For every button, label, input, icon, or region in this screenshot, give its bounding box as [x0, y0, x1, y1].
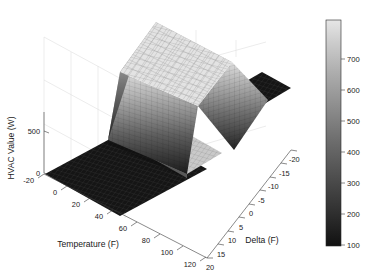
y-tick-label: 20 [206, 263, 214, 272]
x-tick-label: 120 [184, 260, 196, 269]
x-tick-label: 40 [95, 212, 103, 221]
colorbar: 100 200 300 400 500 600 700 [310, 0, 376, 277]
colorbar-tick-label: 700 [347, 55, 360, 64]
x-tick-label: 60 [119, 224, 127, 233]
x-tick-label: 20 [72, 200, 80, 209]
x-tick-label: -20 [23, 176, 34, 185]
colorbar-gradient [326, 20, 341, 246]
colorbar-svg: 100 200 300 400 500 600 700 [310, 0, 376, 277]
y-tick-label: 10 [228, 236, 236, 245]
colorbar-tick-label: 400 [347, 148, 360, 157]
z-tick-label: 500 [28, 127, 40, 136]
y-tick-label: 0 [249, 209, 253, 218]
z-tick-label: 0 [36, 169, 40, 178]
y-tick-label: 15 [217, 250, 225, 259]
figure-root: 0 500 -20 0 20 40 60 80 100 120 [0, 0, 376, 277]
colorbar-tick-label: 600 [347, 86, 360, 95]
y-tick-label: 5 [239, 223, 243, 232]
colorbar-tick-label: 200 [347, 210, 360, 219]
x-tick-label: 80 [142, 236, 150, 245]
z-axis-title: HVAC Value (W) [6, 116, 16, 179]
colorbar-tick-label: 100 [347, 241, 360, 250]
y-tick-label: -5 [258, 196, 265, 205]
z-axis-ticks: 0 500 [28, 127, 49, 178]
y-tick-label: -15 [279, 169, 290, 178]
y-axis-title: Delta (F) [245, 235, 279, 245]
y-tick-label: -10 [268, 182, 279, 191]
colorbar-tick-label: 500 [347, 117, 360, 126]
y-tick-label: -20 [289, 155, 300, 164]
y-axis-ticks: 20 15 10 5 0 -5 -10 -15 -20 [206, 150, 300, 272]
colorbar-ticks [341, 59, 345, 245]
surface-plot-axes: 0 500 -20 0 20 40 60 80 100 120 [0, 0, 310, 277]
x-tick-label: 100 [161, 248, 173, 257]
colorbar-tick-label: 300 [347, 179, 360, 188]
x-tick-label: 0 [53, 188, 57, 197]
x-axis-title: Temperature (F) [57, 239, 119, 249]
plot-svg: 0 500 -20 0 20 40 60 80 100 120 [0, 0, 310, 277]
